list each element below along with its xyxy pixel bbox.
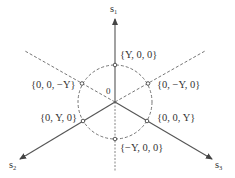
point-label-lower-right: {0, 0, Y} (157, 113, 195, 124)
point-upper-right-marker (146, 82, 150, 86)
point-label-upper-right: {0, −Y, 0} (157, 80, 200, 91)
point-lower-left-marker (81, 119, 85, 123)
axis-subscript: 2 (13, 164, 16, 171)
origin-label: 0 (106, 87, 111, 96)
axis-subscript: 3 (219, 164, 222, 171)
yield-surface-diagram: s1 s2 s3 0 {Y, 0, 0} {0, −Y, 0} {0, 0, −… (0, 0, 235, 178)
dashed-line-upper-left (25, 51, 115, 102)
axis-subscript: 1 (114, 8, 117, 15)
point-upper-left-marker (80, 82, 84, 86)
axis-label-s2: s2 (9, 160, 16, 172)
point-label-upper-left: {0, 0, −Y} (31, 80, 76, 91)
point-bottom-marker (113, 137, 117, 141)
point-label-bottom: {−Y, 0, 0} (120, 143, 163, 154)
point-label-top: {Y, 0, 0} (120, 50, 157, 61)
point-top-marker (113, 63, 117, 67)
axis-label-s1: s1 (110, 4, 117, 16)
axis-s2 (20, 102, 115, 159)
point-lower-right-marker (145, 119, 149, 123)
point-label-lower-left: {0, Y, 0} (40, 113, 77, 124)
axis-label-s3: s3 (215, 160, 222, 172)
